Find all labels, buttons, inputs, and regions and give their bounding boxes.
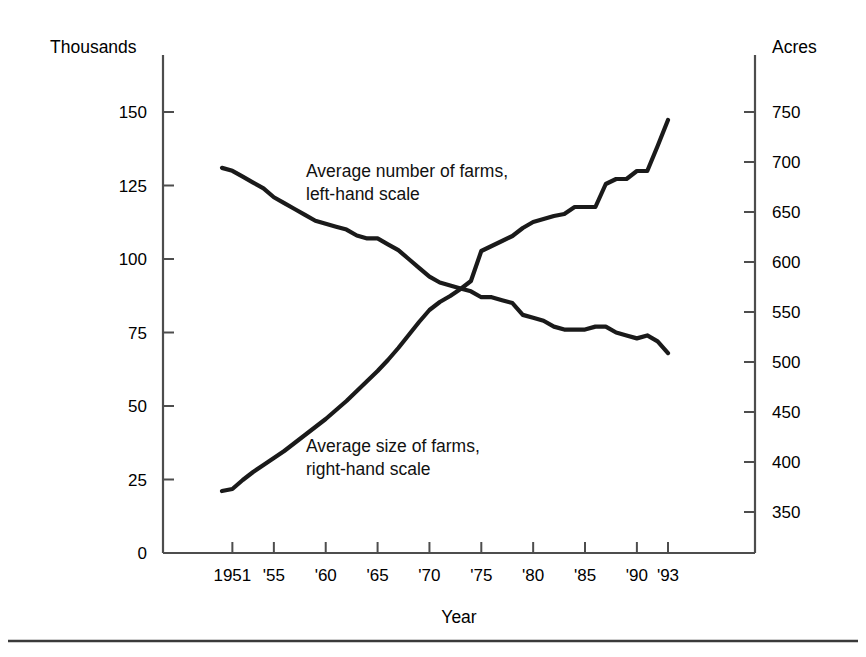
x-axis-ticks: 1951'55'60'65'70'75'80'85'90'93 — [213, 542, 679, 585]
right-tick-label-400: 400 — [772, 453, 800, 472]
left-tick-label-75: 75 — [128, 324, 147, 343]
x-axis-title: Year — [441, 607, 477, 627]
right-tick-label-750: 750 — [772, 103, 800, 122]
x-tick-label-'55: '55 — [263, 566, 285, 585]
left-axis-ticks: 0255075100125150 — [119, 103, 174, 563]
x-tick-label-'75: '75 — [470, 566, 492, 585]
right-tick-label-500: 500 — [772, 353, 800, 372]
right-tick-label-450: 450 — [772, 403, 800, 422]
x-tick-label-'85: '85 — [574, 566, 596, 585]
left-tick-label-25: 25 — [128, 471, 147, 490]
x-tick-label-'93: '93 — [657, 566, 679, 585]
left-tick-label-0: 0 — [138, 544, 147, 563]
right-tick-label-700: 700 — [772, 153, 800, 172]
right-tick-label-600: 600 — [772, 253, 800, 272]
right-tick-label-350: 350 — [772, 503, 800, 522]
farms-line-chart: 0255075100125150 35040045050055060065070… — [0, 0, 866, 657]
annotation-number-line1: Average number of farms, — [306, 161, 508, 181]
left-axis-title: Thousands — [50, 37, 137, 57]
left-tick-label-50: 50 — [128, 397, 147, 416]
x-tick-label-'70: '70 — [418, 566, 440, 585]
x-tick-label-'90: '90 — [626, 566, 648, 585]
right-tick-label-550: 550 — [772, 303, 800, 322]
left-tick-label-125: 125 — [119, 177, 147, 196]
right-axis-title: Acres — [772, 37, 817, 57]
x-tick-label-'65: '65 — [367, 566, 389, 585]
left-tick-label-150: 150 — [119, 103, 147, 122]
annotation-number-line2: left-hand scale — [306, 184, 420, 204]
x-tick-label-1951: 1951 — [213, 566, 251, 585]
annotation-average-size-of-farms: Average size of farms, right-hand scale — [306, 436, 480, 479]
annotation-size-line2: right-hand scale — [306, 459, 431, 479]
right-tick-label-650: 650 — [772, 203, 800, 222]
annotation-size-line1: Average size of farms, — [306, 436, 480, 456]
annotation-average-number-of-farms: Average number of farms, left-hand scale — [306, 161, 508, 204]
left-tick-label-100: 100 — [119, 250, 147, 269]
right-axis-ticks: 350400450500550600650700750 — [744, 103, 800, 522]
x-tick-label-'60: '60 — [315, 566, 337, 585]
x-tick-label-'80: '80 — [522, 566, 544, 585]
figure-container: 0255075100125150 35040045050055060065070… — [0, 0, 866, 657]
